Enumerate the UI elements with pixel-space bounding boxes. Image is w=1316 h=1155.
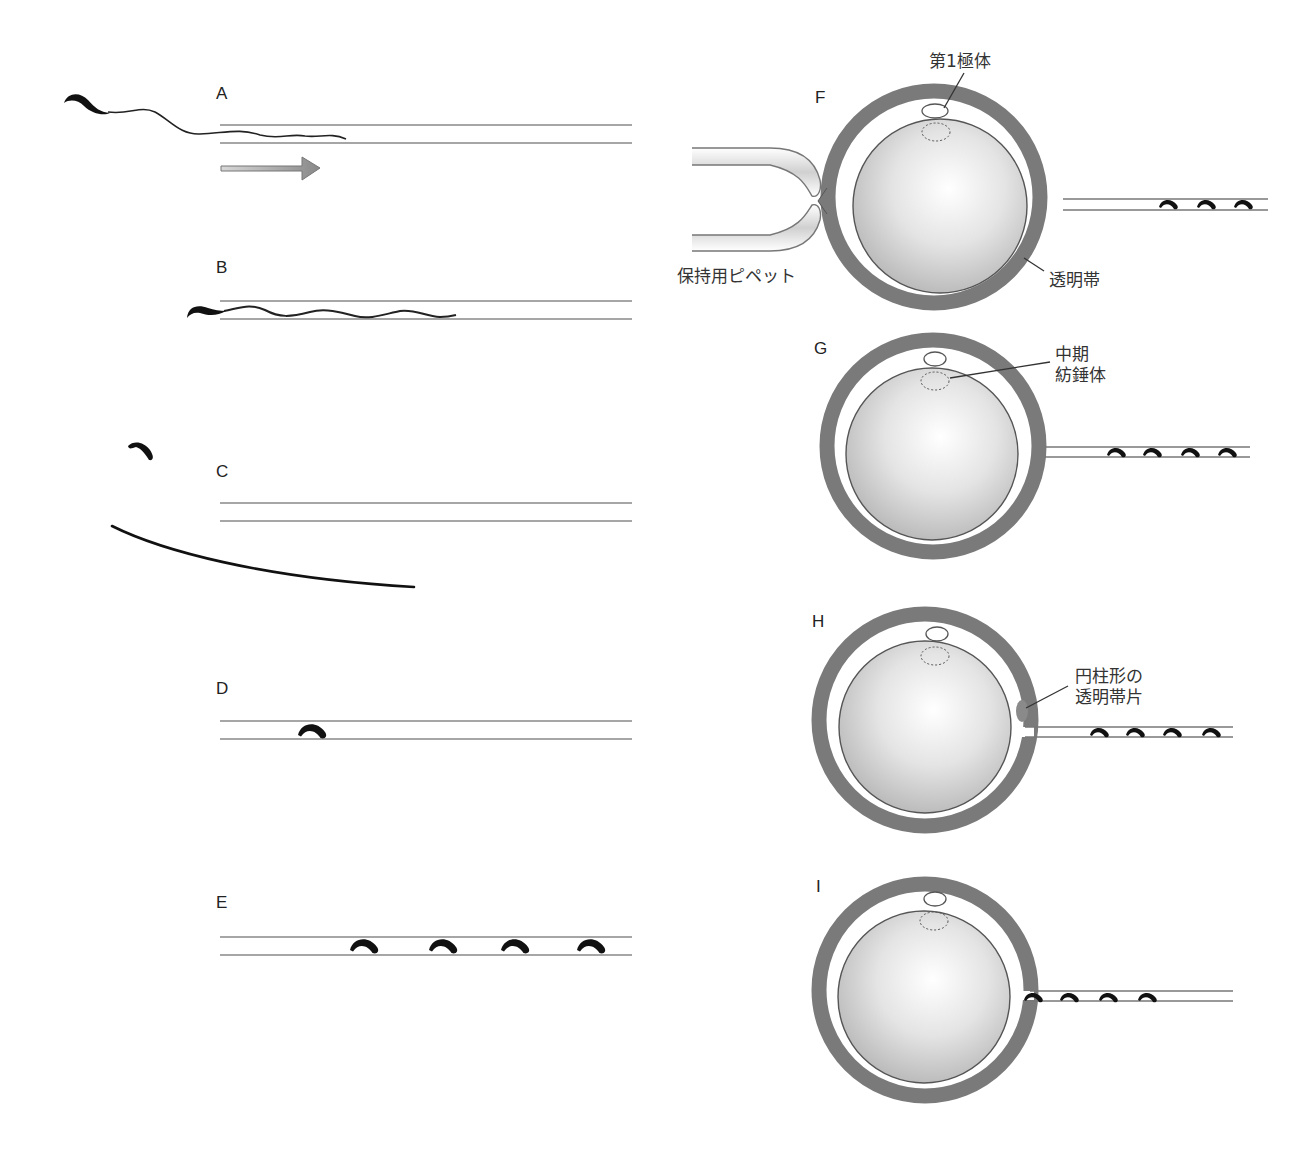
- callout-zp-fragment-2: 透明帯片: [1075, 687, 1143, 707]
- figure-drawing: [0, 0, 1316, 1155]
- first-polar-body: [924, 352, 946, 366]
- sperm-head-icon: [298, 724, 326, 738]
- icsi-procedure-figure: A B C D E F G H I 第1極体 保持用ピペット 透明帯 中期 紡錘…: [0, 0, 1316, 1155]
- panel-label-g: G: [814, 339, 827, 359]
- panel-b-drawing: [187, 301, 632, 319]
- first-polar-body: [922, 104, 948, 118]
- first-polar-body: [926, 627, 948, 641]
- panel-label-i: I: [816, 877, 821, 897]
- callout-zona-pellucida: 透明帯: [1049, 270, 1100, 290]
- callout-metaphase-spindle-1: 中期: [1055, 344, 1089, 364]
- oocyte: [853, 119, 1027, 293]
- panel-label-e: E: [216, 893, 227, 913]
- panel-label-f: F: [815, 88, 825, 108]
- panel-i-drawing: [819, 884, 1233, 1096]
- panel-label-b: B: [216, 258, 227, 278]
- detached-sperm-head-icon: [128, 443, 153, 461]
- panel-label-d: D: [216, 679, 228, 699]
- panel-c-drawing: [112, 443, 632, 587]
- oocyte: [838, 911, 1010, 1083]
- zona-fragment: [1016, 700, 1028, 722]
- direction-arrow-icon: [221, 157, 320, 180]
- panel-h-drawing: [819, 614, 1233, 826]
- callout-metaphase-spindle-2: 紡錘体: [1055, 365, 1106, 385]
- callout-zp-fragment-1: 円柱形の: [1075, 666, 1143, 686]
- sperm-head-icon: [187, 306, 226, 318]
- first-polar-body: [924, 892, 946, 906]
- panel-label-a: A: [216, 84, 227, 104]
- holding-pipette: [692, 148, 821, 251]
- panel-label-h: H: [812, 612, 824, 632]
- detached-tail: [112, 526, 414, 587]
- sperm-head-icon: [64, 94, 110, 114]
- callout-holding-pipette: 保持用ピペット: [677, 266, 796, 286]
- panel-d-drawing: [220, 721, 632, 739]
- panel-a-drawing: [64, 94, 632, 180]
- callout-first-polar-body: 第1極体: [929, 51, 991, 71]
- oocyte: [839, 641, 1011, 813]
- panel-label-c: C: [216, 462, 228, 482]
- panel-e-drawing: [220, 937, 632, 955]
- oocyte: [846, 368, 1018, 540]
- panel-g-drawing: [827, 340, 1250, 552]
